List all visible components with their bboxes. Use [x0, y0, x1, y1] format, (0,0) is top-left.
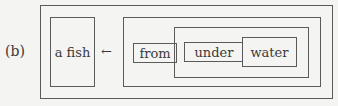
box-under: under — [184, 42, 244, 62]
text-water: water — [250, 45, 288, 60]
figure-label: (b) — [5, 44, 25, 58]
box-water: water — [242, 37, 297, 67]
text-under: under — [195, 45, 234, 60]
arrow-left-icon: ← — [101, 45, 112, 58]
box-from: from — [133, 43, 177, 63]
text-a-fish: a fish — [55, 45, 91, 60]
box-a-fish: a fish — [50, 17, 95, 87]
text-from: from — [139, 46, 170, 61]
